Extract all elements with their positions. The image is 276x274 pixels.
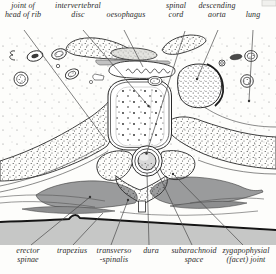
label-joint-of-head-of-rib: joint of head of rib — [5, 1, 41, 19]
label-dura: dura — [143, 246, 159, 255]
label-spinal-cord: spinal cord — [166, 1, 186, 19]
label-line: space — [171, 255, 216, 264]
label-line: head of rib — [5, 10, 41, 19]
label-line: descending — [199, 1, 236, 10]
vertebral-body-shape — [108, 80, 172, 151]
label-line: transverso — [97, 246, 132, 255]
label-line: spinal — [166, 1, 186, 10]
label-lung: lung — [246, 10, 261, 19]
anatomy-diagram — [0, 0, 276, 274]
label-line: -spinalis — [97, 255, 132, 264]
label-line: zygapophysial — [222, 246, 269, 255]
label-intervertebral-disc: intervertebral disc — [55, 1, 101, 19]
spinal-canal — [132, 146, 162, 176]
label-line: spinae — [16, 255, 40, 264]
label-line: dura — [143, 246, 159, 255]
label-oesophagus: oesophagus — [107, 10, 146, 19]
label-line: cord — [166, 10, 186, 19]
label-descending-aorta: descending aorta — [199, 1, 236, 19]
label-transverso-spinalis: transverso -spinalis — [97, 246, 132, 264]
label-trapezius: trapezius — [57, 246, 87, 255]
label-zygapophysial-facet-joint: zygapophysial (facet) joint — [222, 246, 269, 264]
label-line: lung — [246, 10, 261, 19]
label-line: oesophagus — [107, 10, 146, 19]
page-artifact — [262, 0, 276, 6]
cord-highlight — [140, 154, 149, 160]
label-line: subarachnoid — [171, 246, 216, 255]
label-line: intervertebral — [55, 1, 101, 10]
label-erector-spinae: erector spinae — [16, 246, 40, 264]
spinous-process-tip — [139, 201, 146, 212]
label-line: aorta — [199, 10, 236, 19]
label-line: (facet) joint — [222, 255, 269, 264]
label-line: trapezius — [57, 246, 87, 255]
label-subarachnoid-space: subarachnoid space — [171, 246, 216, 264]
anatomy-figure: joint of head of rib intervertebral disc… — [0, 0, 276, 274]
label-line: disc — [55, 10, 101, 19]
label-line: erector — [16, 246, 40, 255]
label-line: joint of — [5, 1, 41, 10]
azygos-vein-shape — [148, 76, 162, 85]
